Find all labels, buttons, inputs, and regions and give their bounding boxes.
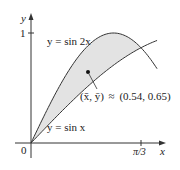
x-axis-label: x bbox=[159, 145, 165, 157]
centroid-label-lhs: (x̄, ȳ) bbox=[80, 90, 104, 103]
origin-label: 0 bbox=[21, 144, 27, 156]
curve-label-sin-2x: y = sin 2x bbox=[47, 35, 91, 47]
y-axis-label: y bbox=[20, 12, 26, 24]
curve-label-sin-x: y = sin x bbox=[47, 121, 86, 133]
approx-symbol: ≈ bbox=[109, 90, 115, 102]
centroid-diagram: y 1 0 π/3 x y = sin 2x y = sin x (x̄, ȳ)… bbox=[0, 0, 180, 170]
centroid-value: (0.54, 0.65) bbox=[119, 90, 171, 103]
centroid-point bbox=[86, 70, 90, 74]
centroid-label: (x̄, ȳ) ≈ (0.54, 0.65) bbox=[80, 90, 171, 103]
y-tick-label: 1 bbox=[20, 27, 26, 39]
y-axis-arrow-icon bbox=[29, 13, 34, 20]
x-tick-label: π/3 bbox=[133, 146, 146, 157]
